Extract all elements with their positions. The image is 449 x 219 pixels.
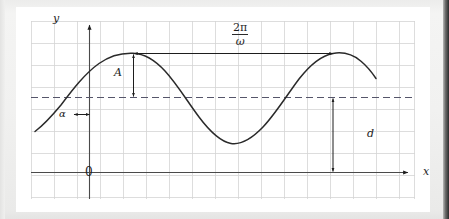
- right-edge-band: [443, 0, 449, 219]
- left-edge-band: [0, 0, 5, 219]
- plot-card: [17, 8, 429, 211]
- figure-root: y x 0 A α d 2π ω: [0, 0, 449, 219]
- period-denominator: ω: [232, 35, 248, 47]
- y-axis-label: y: [53, 13, 59, 24]
- phase-shift-label: α: [59, 109, 66, 119]
- vertical-shift-label: d: [367, 128, 374, 139]
- origin-label: 0: [85, 166, 93, 178]
- x-axis-label: x: [423, 166, 429, 177]
- sine-curve: [35, 53, 376, 144]
- period-label: 2π ω: [232, 22, 248, 47]
- period-numerator: 2π: [232, 22, 248, 35]
- amplitude-label: A: [114, 67, 122, 78]
